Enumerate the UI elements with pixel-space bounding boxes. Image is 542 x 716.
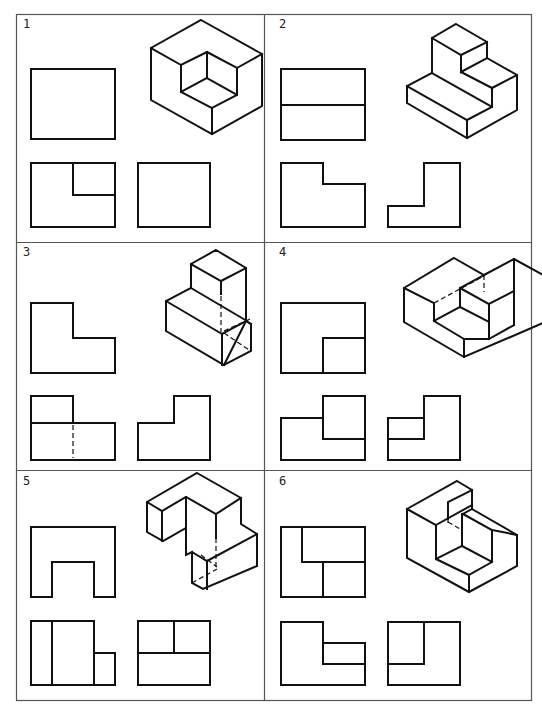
panel-2-top-view (281, 163, 365, 227)
panel-5-side-view (138, 621, 210, 685)
panel-6-top-view (281, 622, 365, 685)
panel-4-side-view (388, 396, 460, 460)
panel-2-isometric (407, 24, 517, 138)
panel-4-front-view (281, 303, 365, 373)
panel-5-isometric (147, 473, 257, 589)
panel-6-side-view (388, 622, 460, 685)
panel-1-side-view (138, 163, 210, 227)
panel-3-top-view (31, 396, 115, 460)
panel-4-top-view (281, 396, 365, 460)
panel-6 (281, 481, 517, 685)
panel-2 (281, 24, 517, 227)
panel-1 (31, 20, 262, 227)
panel-4-isometric (404, 258, 542, 357)
panel-2-front-view (281, 69, 365, 140)
panel-3 (31, 250, 251, 460)
panel-3-isometric (166, 250, 251, 365)
panel-6-front-view (281, 527, 365, 597)
panel-5-front-view (31, 527, 115, 597)
panel-5-top-view (31, 621, 115, 685)
panel-4 (281, 258, 542, 460)
panel-2-side-view (388, 163, 460, 227)
panel-1-isometric (151, 20, 262, 134)
panel-6-isometric (407, 481, 517, 592)
panel-3-front-view (31, 303, 115, 373)
panel-3-side-view (138, 396, 210, 460)
panel-1-front-view (31, 69, 115, 139)
drawing-sheet (0, 0, 542, 716)
panel-1-top-view (31, 163, 115, 227)
panel-5 (31, 473, 257, 685)
